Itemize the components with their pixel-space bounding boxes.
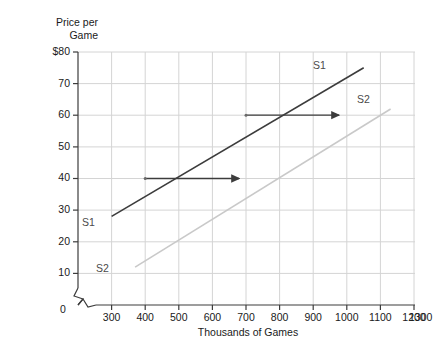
ytick-label-40: 40 (24, 171, 70, 183)
series-label-s2-upper: S2 (357, 93, 370, 105)
ytick-label-20: 20 (24, 235, 70, 247)
series-line-s1 (112, 68, 364, 217)
supply-curve-figure: Price perGame (0, 0, 436, 353)
x-axis-title: Thousands of Games (78, 326, 418, 338)
axis-break-icon (74, 288, 83, 305)
xtick-label-1300: 1300 (409, 311, 435, 323)
ytick-label-50: 50 (24, 140, 70, 152)
series-label-s1-upper: S1 (313, 59, 326, 71)
series-line-s2 (135, 109, 391, 267)
y-tick-marks (73, 52, 78, 273)
series-label-s2-lower: S2 (96, 262, 109, 274)
x-axis-break-icon (78, 299, 96, 307)
series-label-s1-lower: S1 (82, 216, 95, 228)
ytick-label-10: 10 (24, 266, 70, 278)
ytick-label-30: 30 (24, 203, 70, 215)
origin-label: 0 (60, 303, 66, 315)
ytick-label-80: $80 (24, 45, 70, 57)
ytick-label-70: 70 (24, 77, 70, 89)
x-tick-marks (112, 305, 414, 310)
ytick-label-60: 60 (24, 108, 70, 120)
